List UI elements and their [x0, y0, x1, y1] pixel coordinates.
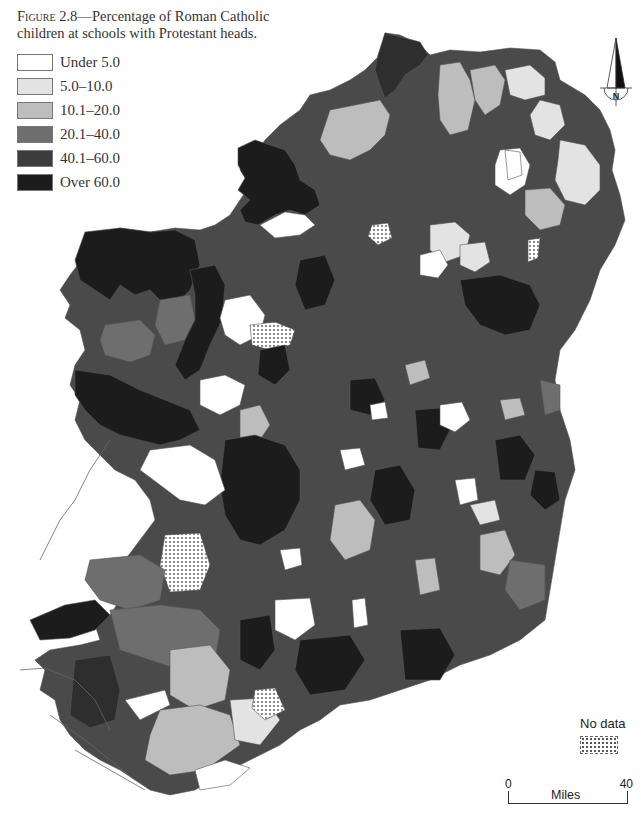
figure-caption: Figure 2.8—Percentage of Roman Catholic …: [17, 8, 269, 42]
legend-item-5-10: 5.0–10.0: [17, 74, 120, 98]
scale-bar: 0 40 Miles: [503, 777, 633, 813]
legend-item-40-60: 40.1–60.0: [17, 146, 120, 170]
legend-item-20-40: 20.1–40.0: [17, 122, 120, 146]
figure-label: Figure 2.8: [17, 8, 77, 24]
legend-label: 40.1–60.0: [60, 150, 120, 167]
no-data-swatch: [580, 736, 618, 754]
legend-swatch: [17, 54, 53, 71]
legend-swatch: [17, 78, 53, 95]
legend-label: Over 60.0: [60, 174, 120, 191]
north-arrow-icon: N: [598, 36, 634, 108]
caption-line-1: —Percentage of Roman Catholic: [77, 8, 269, 24]
legend-label: 5.0–10.0: [60, 78, 113, 95]
legend-swatch: [17, 126, 53, 143]
legend-item-10-20: 10.1–20.0: [17, 98, 120, 122]
legend-label: Under 5.0: [60, 54, 120, 71]
scale-start: 0: [505, 777, 512, 791]
legend-item-under-5: Under 5.0: [17, 50, 120, 74]
legend-label: 10.1–20.0: [60, 102, 120, 119]
legend-swatch: [17, 150, 53, 167]
no-data-label: No data: [580, 716, 626, 731]
scale-end: 40: [620, 777, 633, 791]
map-legend: Under 5.0 5.0–10.0 10.1–20.0 20.1–40.0 4…: [17, 50, 120, 194]
legend-swatch: [17, 102, 53, 119]
legend-item-over-60: Over 60.0: [17, 170, 120, 194]
scale-unit: Miles: [551, 788, 580, 802]
caption-line-2: children at schools with Protestant head…: [17, 25, 269, 42]
legend-label: 20.1–40.0: [60, 126, 120, 143]
no-data-key: No data: [580, 716, 626, 754]
north-label: N: [613, 91, 620, 101]
legend-swatch: [17, 174, 53, 191]
